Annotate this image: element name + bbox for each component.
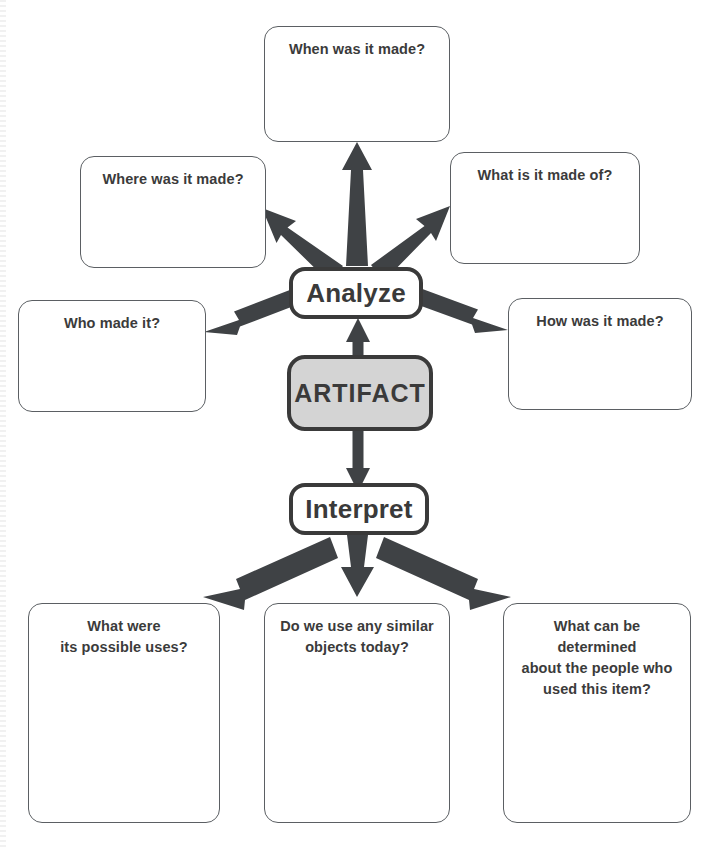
question-line: about the people who: [514, 658, 680, 679]
arrow-interpret-to-uses: [203, 537, 338, 610]
hub-label: Analyze: [306, 278, 406, 309]
arrow-analyze-to-who: [204, 288, 299, 335]
question-box-when-was-it-made[interactable]: When was it made?: [264, 26, 450, 142]
question-box-possible-uses[interactable]: What were its possible uses?: [28, 603, 220, 823]
hub-artifact[interactable]: ARTIFACT: [287, 355, 433, 431]
question-box-how-was-it-made[interactable]: How was it made?: [508, 298, 692, 410]
question-box-people-who-used-it[interactable]: What can be determined about the people …: [503, 603, 691, 823]
question-text: When was it made?: [289, 41, 425, 57]
question-text: Who made it?: [64, 315, 160, 331]
question-line: used this item?: [514, 679, 680, 700]
arrow-analyze-to-how: [413, 287, 508, 333]
question-text: What is it made of?: [478, 167, 613, 183]
question-line: What can be determined: [514, 616, 680, 658]
question-box-what-is-it-made-of[interactable]: What is it made of?: [450, 152, 640, 264]
hub-label: Interpret: [305, 494, 412, 525]
arrow-artifact-to-analyze: [346, 318, 370, 355]
question-box-where-was-it-made[interactable]: Where was it made?: [80, 156, 266, 268]
question-line: objects today?: [275, 637, 439, 658]
arrow-analyze-to-when: [342, 142, 372, 266]
hub-interpret[interactable]: Interpret: [289, 483, 429, 535]
question-line: What were: [39, 616, 209, 637]
question-box-who-made-it[interactable]: Who made it?: [18, 300, 206, 412]
hub-analyze[interactable]: Analyze: [289, 267, 423, 319]
question-line: Do we use any similar: [275, 616, 439, 637]
scan-edge-artifact: [0, 0, 6, 849]
arrow-interpret-to-similar: [341, 535, 374, 597]
question-line: its possible uses?: [39, 637, 209, 658]
question-text: How was it made?: [536, 313, 663, 329]
question-box-similar-objects-today[interactable]: Do we use any similar objects today?: [264, 603, 450, 823]
diagram-canvas: When was it made? Where was it made? Wha…: [0, 0, 716, 849]
arrow-interpret-to-people: [376, 537, 511, 610]
hub-label: ARTIFACT: [294, 379, 426, 408]
question-text: Where was it made?: [102, 171, 243, 187]
